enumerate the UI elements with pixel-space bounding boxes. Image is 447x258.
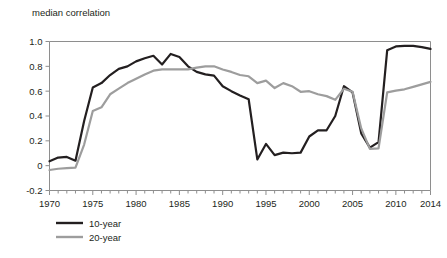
series-lines bbox=[50, 46, 431, 170]
x-tick-label: 2005 bbox=[342, 198, 363, 209]
chart-title: median correlation bbox=[32, 7, 110, 18]
median-correlation-chart: median correlation 1.00.80.60.40.20-0.2 … bbox=[0, 0, 447, 258]
y-tick-label: 0.6 bbox=[29, 86, 42, 97]
axis-tick-marks bbox=[46, 42, 431, 196]
y-tick-label: 0.4 bbox=[29, 110, 42, 121]
y-tick-label: 0 bbox=[37, 160, 42, 171]
x-tick-label: 1995 bbox=[255, 198, 276, 209]
x-tick-label: 1970 bbox=[39, 198, 60, 209]
series-line-10-year bbox=[50, 46, 431, 161]
x-tick-label: 2000 bbox=[299, 198, 320, 209]
chart-svg: median correlation 1.00.80.60.40.20-0.2 … bbox=[0, 0, 447, 258]
chart-legend: 10-year20-year bbox=[56, 218, 121, 243]
x-axis-tick-labels: 1970197519801985199019952000200520102014 bbox=[39, 198, 441, 209]
plot-frame bbox=[50, 42, 431, 191]
x-tick-label: 1975 bbox=[82, 198, 103, 209]
legend-label-10-year: 10-year bbox=[89, 218, 121, 229]
y-tick-label: 0.8 bbox=[29, 61, 42, 72]
x-tick-label: 1980 bbox=[126, 198, 147, 209]
y-tick-label: -0.2 bbox=[26, 185, 42, 196]
series-line-20-year bbox=[50, 66, 431, 170]
legend-label-20-year: 20-year bbox=[89, 232, 121, 243]
x-tick-label: 1990 bbox=[212, 198, 233, 209]
y-tick-label: 0.2 bbox=[29, 135, 42, 146]
x-tick-label: 1985 bbox=[169, 198, 190, 209]
y-axis-tick-labels: 1.00.80.60.40.20-0.2 bbox=[26, 36, 42, 196]
x-tick-label: 2014 bbox=[420, 198, 441, 209]
y-tick-label: 1.0 bbox=[29, 36, 42, 47]
x-tick-label: 2010 bbox=[385, 198, 406, 209]
